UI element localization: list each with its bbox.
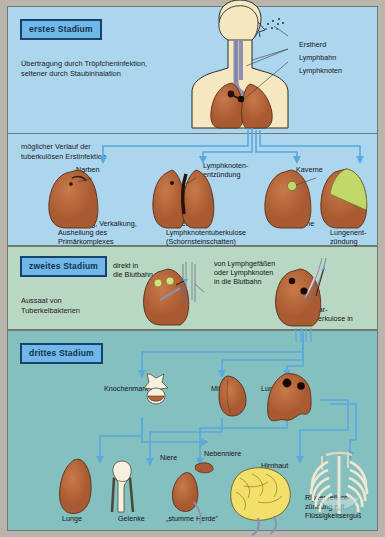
outcome-label-lymphknotenentzuendung: Lymphknoten- entzündung (203, 161, 248, 179)
outcome-caption-narben: Vernarbung, Verkalkung, Ausheilung des P… (58, 219, 137, 246)
outcome-caption-kaesige-lungenentzuendung: käsige Lungenent- zündung (330, 219, 366, 246)
organ-label-gelenke: Gelenke (118, 514, 145, 523)
stage-3-badge: zweites Stadium (20, 256, 107, 277)
stage-1-note: Übertragung durch Tröpfcheninfektion, se… (21, 59, 147, 78)
outcome-caption-lymphknotentuberkulose: ausgedehnte Lymphknotentuberkulose (Scho… (166, 219, 246, 246)
stage-3-panel: zweites Stadium Aussaat von Tuberkelbakt… (7, 246, 378, 330)
organ-label-hirnhaut: Hirnhaut (261, 461, 288, 470)
stage-1-panel: erstes Stadium Übertragung durch Tröpfch… (7, 6, 378, 134)
organ-label-stumme-herde: „stumme Herde" (166, 514, 218, 523)
outcome-label-narben: Narben (76, 165, 100, 174)
diagram-page: erstes Stadium Übertragung durch Tröpfch… (0, 0, 385, 537)
organ-label-nebenniere: Nebenniere (204, 449, 241, 458)
stage-2-note: möglicher Verlauf der tuberkulösen Ersti… (21, 142, 106, 161)
outcome-label-kaverne: Kaverne (296, 165, 323, 174)
pleura-caption: Rippenfellent- zündung mit Flüssigkeitse… (305, 493, 361, 520)
route-label-lymphgefaesse: von Lymphgefäßen oder Lymphknoten in die… (214, 259, 275, 286)
stage-4-panel: drittes Stadium Knochenmark Milz Lunge N… (7, 330, 378, 531)
stage-1-badge: erstes Stadium (20, 19, 102, 40)
organ-label-knochenmark: Knochenmark (104, 384, 148, 393)
organ-label-lunge-top: Lunge (261, 384, 281, 393)
route-label-direkt-blutbahn: direkt in die Blutbahn (113, 261, 153, 279)
outcome-caption-fruehkaverne: Frühkaverne (274, 219, 314, 228)
callout-lymphknoten: Lymphknoten (299, 66, 342, 75)
result-label-miliartuberkulose: Miliar- tuberkulose in (308, 305, 353, 323)
organ-label-niere: Niere (160, 453, 177, 462)
stage-3-note: Aussaat von Tuberkelbakterien (21, 296, 80, 315)
organ-label-milz: Milz (211, 384, 224, 393)
callout-erstherd: Erstherd (299, 40, 326, 49)
callout-lymphbahn: Lymphbahn (299, 53, 336, 62)
stage-4-badge: drittes Stadium (20, 343, 103, 364)
organ-label-lunge-bottom: Lunge (62, 514, 82, 523)
stage-2-panel: möglicher Verlauf der tuberkulösen Ersti… (7, 134, 378, 246)
